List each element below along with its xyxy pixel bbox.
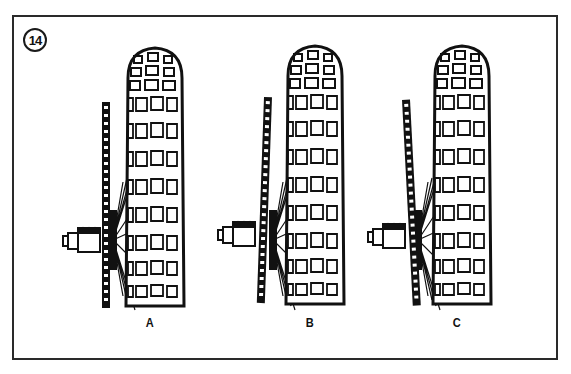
panel-a-illustration [63, 48, 184, 310]
panel-b-illustration [218, 46, 344, 310]
panel-label-b: B [306, 315, 314, 330]
panel-label-a: A [146, 315, 154, 330]
wheel-chain-illustrations [0, 0, 571, 374]
panel-c-illustration [368, 46, 491, 310]
panel-label-c: C [453, 315, 461, 330]
